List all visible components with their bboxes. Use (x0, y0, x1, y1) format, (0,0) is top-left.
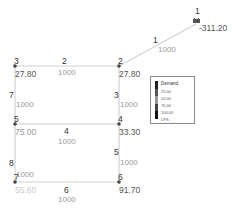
pipe-8-length: 1000 (16, 171, 34, 179)
node-1-id: 1 (195, 7, 200, 16)
legend-color-bar (155, 81, 158, 119)
node-4-value: 33.30 (119, 128, 140, 137)
pipe-4-id: 4 (64, 127, 69, 136)
legend-item-1: 25.00 (161, 89, 171, 94)
node-1-value: -311.20 (199, 24, 227, 33)
node-5-value: 75.00 (15, 128, 36, 137)
pipe-2-id: 2 (62, 57, 67, 66)
node-3-value: 27.80 (15, 70, 36, 79)
node-7-value: 55.60 (15, 186, 36, 195)
network-diagram: 1 -311.20 2 27.80 3 27.80 4 33.30 5 75.0… (0, 0, 236, 220)
pipe-5-length: 1000 (120, 159, 138, 167)
pipe-3-id: 3 (114, 91, 119, 100)
node-2-value: 27.80 (119, 70, 140, 79)
pipe-5-id: 5 (114, 148, 119, 157)
pipe-7-length: 1000 (16, 101, 34, 109)
legend-unit: LPS (161, 117, 169, 122)
node-5-id: 5 (14, 115, 19, 124)
node-6-id: 6 (118, 173, 123, 182)
pipe-4-length: 1000 (58, 138, 76, 146)
pipe-6-length: 1000 (58, 196, 76, 204)
legend-item-3: 75.00 (161, 103, 171, 108)
node-4-id: 4 (118, 115, 123, 124)
pipe-6-id: 6 (64, 186, 69, 195)
legend-title: Demand (161, 81, 178, 86)
legend-item-4: 100.00 (161, 110, 173, 115)
node-2-id: 2 (118, 57, 123, 66)
pipe-3-length: 1000 (120, 101, 138, 109)
pipe-1-id: 1 (153, 36, 158, 45)
legend[interactable]: Demand 25.00 50.00 75.00 100.00 LPS (150, 76, 195, 124)
pipe-8-id: 8 (9, 159, 14, 168)
pipe-2-length: 1000 (58, 69, 76, 77)
pipe-1-length: 1000 (158, 46, 176, 54)
node-3-id: 3 (14, 57, 19, 66)
node-6-value: 91.70 (119, 186, 140, 195)
legend-item-2: 50.00 (161, 96, 171, 101)
pipe-7-id: 7 (9, 91, 14, 100)
